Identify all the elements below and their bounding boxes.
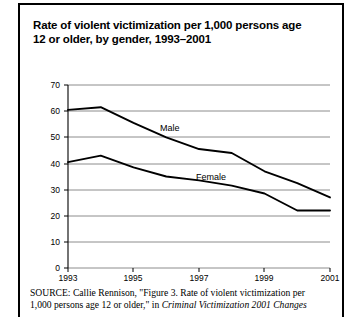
y-tick-label-0: 0 [55, 263, 60, 273]
x-tick-label-1993: 1993 [59, 273, 78, 283]
y-tick-label-70: 70 [51, 80, 61, 90]
y-axis-ticks [64, 85, 68, 268]
y-tick-label-50: 50 [51, 132, 61, 142]
series-label-female: Female [196, 172, 226, 182]
series-line-male [68, 107, 330, 197]
source-caption-text-2: 1,000 persons age 12 or older," in [30, 299, 162, 310]
y-tick-label-10: 10 [51, 237, 61, 247]
x-axis-ticks [68, 268, 330, 272]
source-caption-line-2: 1,000 persons age 12 or older," in Crimi… [30, 299, 338, 311]
x-tick-label-1997: 1997 [190, 273, 209, 283]
source-kicker: SOURCE: [30, 287, 71, 298]
y-tick-label-40: 40 [51, 159, 61, 169]
source-caption-title-italic: Criminal Victimization 2001 Changes [162, 299, 307, 310]
x-tick-label-1999: 1999 [255, 273, 274, 283]
y-tick-label-20: 20 [51, 211, 61, 221]
y-axis-tick-labels: 70 60 50 40 30 20 10 0 [51, 80, 61, 273]
source-caption-text-1: Callie Rennison, "Figure 3. Rate of viol… [73, 287, 305, 298]
x-tick-label-1995: 1995 [124, 273, 143, 283]
y-tick-label-60: 60 [51, 106, 61, 116]
y-tick-label-30: 30 [51, 185, 61, 195]
series-label-male: Male [160, 123, 180, 133]
source-caption: SOURCE: Callie Rennison, "Figure 3. Rate… [30, 287, 338, 310]
x-tick-label-2001: 2001 [321, 273, 340, 283]
x-axis-tick-labels: 1993 1995 1997 1999 2001 [59, 273, 340, 283]
source-caption-line-1: SOURCE: Callie Rennison, "Figure 3. Rate… [30, 287, 338, 299]
